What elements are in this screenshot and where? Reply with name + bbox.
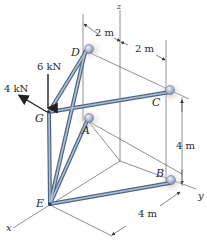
load-4kN-arrow [20,96,47,112]
joint-E [48,202,52,206]
joint-label-C: C [152,96,161,109]
space-truss-diagram: 6 kN 4 kN D C G A B E z y x 2 m 2 m 4 m … [0,0,207,248]
joint-label-E: E [35,197,44,210]
dimension-bottom: 4 m [138,208,158,219]
support-D [85,45,94,54]
support-A [85,114,94,123]
support-C [166,86,175,95]
axis-label-y: y [197,190,204,201]
joint-label-G: G [35,112,44,125]
dimension-top-left: 2 m [95,27,115,38]
axis-label-x: x [6,222,12,233]
truss-members [49,50,170,204]
dimension-right-vertical: 4 m [176,140,196,151]
joint-label-A: A [81,124,90,137]
joint-label-D: D [70,46,80,59]
load-4kN-label: 4 kN [4,83,29,94]
axis-label-z: z [116,2,122,11]
joint-G [47,110,50,113]
support-B [167,176,176,185]
joint-label-B: B [155,167,164,180]
load-6kN-label: 6 kN [37,61,62,72]
dimension-top-right: 2 m [135,43,155,54]
